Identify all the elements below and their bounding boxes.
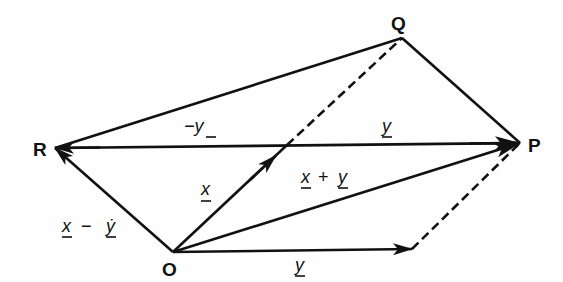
edge-QP — [402, 38, 520, 143]
label-xmy-minus: − — [81, 216, 92, 236]
point-label-P: P — [528, 135, 541, 156]
vector-x-plus-y — [173, 143, 520, 252]
vector-diagram: Q R P O −y y x x + y x − ẏ y — [0, 0, 563, 282]
vector-y-bottom — [173, 249, 412, 252]
point-label-O: O — [162, 259, 177, 280]
label-xpy-plus: + — [318, 167, 329, 187]
point-label-R: R — [33, 139, 47, 160]
label-xmy-y: ẏ — [104, 216, 116, 236]
label-x: x — [200, 179, 211, 199]
arrow-neg-y-to-R — [55, 148, 100, 149]
label-xpy-y: y — [336, 167, 348, 187]
arrow-y-to-P — [470, 143, 520, 144]
label-xmy-x: x — [61, 216, 72, 236]
point-label-Q: Q — [391, 13, 406, 34]
edge-RQ — [55, 38, 402, 148]
diagram-canvas: Q R P O −y y x x + y x − ẏ y — [0, 0, 563, 282]
label-neg-y: −y — [184, 116, 205, 136]
label-y-top: y — [380, 116, 392, 136]
label-y-bottom: y — [293, 255, 305, 275]
arrow-x-head — [250, 156, 276, 181]
label-xpy-x: x — [300, 167, 311, 187]
